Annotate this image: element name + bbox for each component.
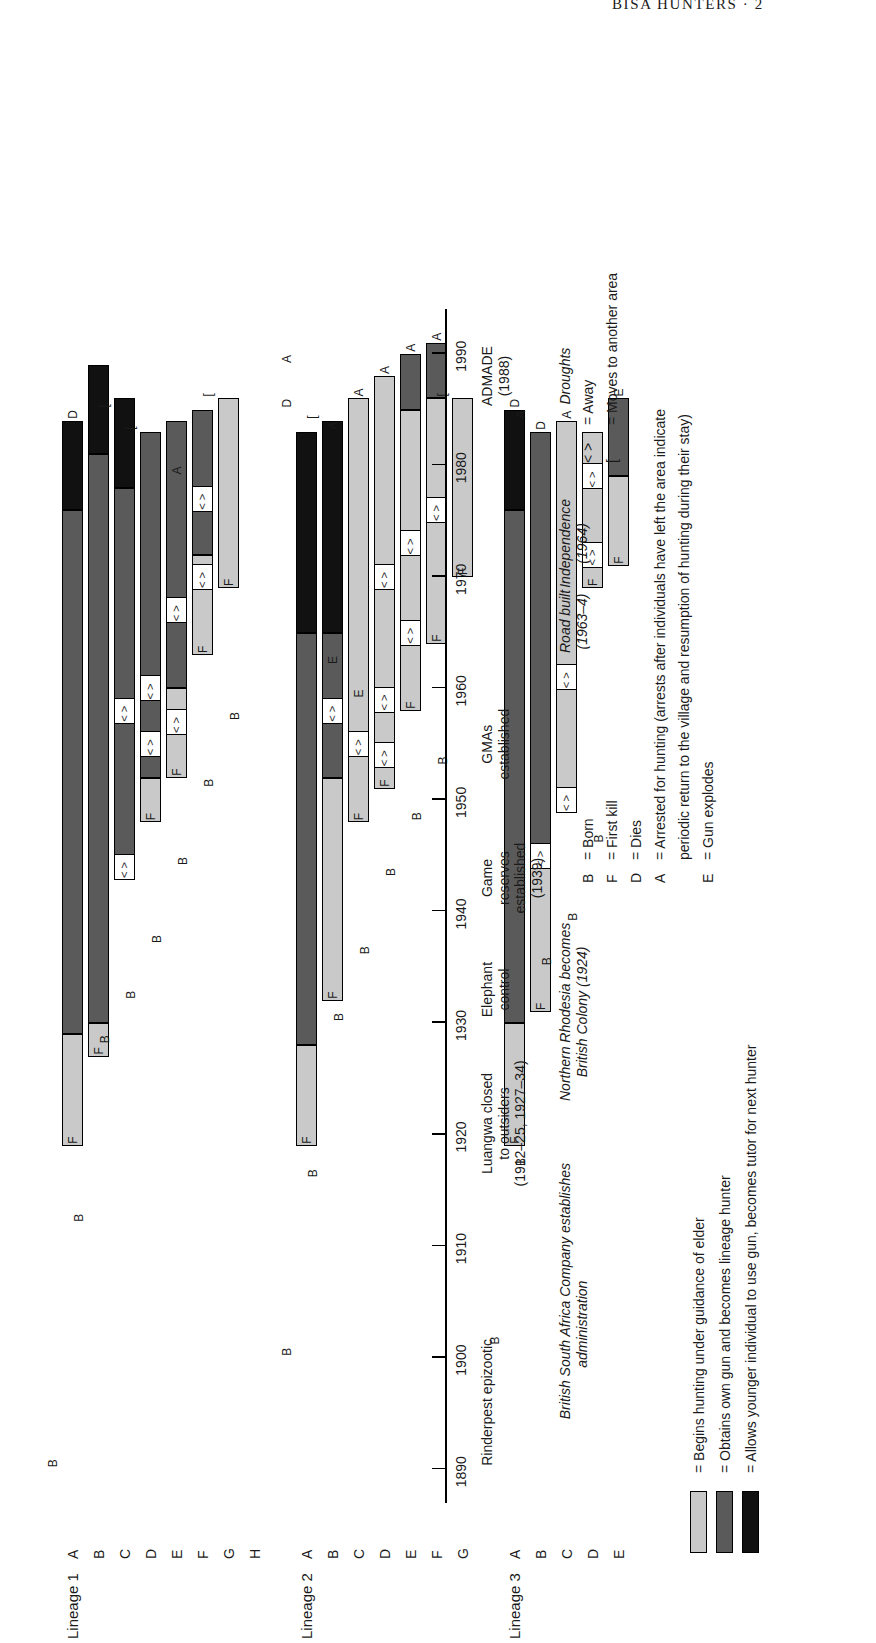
event-marker-F: F bbox=[379, 779, 391, 786]
figure: Lineage 1ABCDEFGHLineage 2ABCDEFGLineage… bbox=[0, 0, 876, 1643]
hunter-label: B bbox=[325, 1550, 341, 1559]
event-note-line: Independence bbox=[557, 448, 574, 638]
event-marker-B: B bbox=[151, 935, 163, 943]
away-marker: < > bbox=[171, 605, 182, 621]
key-letter-label: = Gun explodes bbox=[700, 762, 716, 860]
hunter-label: D bbox=[585, 1549, 601, 1559]
event-marker-A: A bbox=[353, 388, 365, 396]
axis-tick bbox=[432, 798, 445, 800]
key-letter-label: = Arrested for hunting (arrests after in… bbox=[652, 409, 668, 860]
event-marker-A: A bbox=[405, 344, 417, 352]
event-marker-[: [ bbox=[306, 415, 318, 418]
away-marker: < > bbox=[405, 628, 416, 644]
axis-tick bbox=[432, 1133, 445, 1135]
event-marker-B: B bbox=[411, 812, 423, 820]
career-segment-lineage_hunter bbox=[426, 343, 447, 399]
event-note-line: Rinderpest epizootic bbox=[479, 1307, 496, 1497]
career-segment-tutor bbox=[62, 421, 83, 510]
career-segment-tutor bbox=[322, 421, 343, 633]
key-letter-symbol: B bbox=[580, 874, 596, 883]
event-marker-A: A bbox=[515, 411, 527, 419]
event-note-line: (1939) bbox=[529, 783, 546, 973]
hunter-label: A bbox=[507, 1550, 523, 1559]
axis-tick bbox=[432, 575, 445, 577]
career-segment-lineage_hunter bbox=[166, 421, 187, 689]
career-segment-lineage_hunter bbox=[400, 354, 421, 410]
key-symbol-label: = Away bbox=[580, 380, 596, 425]
axis-tick-label: 1910 bbox=[453, 1233, 469, 1264]
event-marker-F: F bbox=[353, 813, 365, 820]
event-marker-B: B bbox=[359, 946, 371, 954]
axis-tick-label: 1940 bbox=[453, 898, 469, 929]
event-marker-A: A bbox=[379, 366, 391, 374]
axis-tick bbox=[432, 910, 445, 912]
career-segment-lineage_hunter bbox=[62, 510, 83, 1034]
hunter-label: H bbox=[247, 1549, 263, 1559]
event-marker-F: F bbox=[171, 768, 183, 775]
event-marker-A: A bbox=[171, 466, 183, 474]
event-marker-D: D bbox=[281, 399, 293, 408]
career-segment-apprentice bbox=[608, 476, 629, 565]
event-marker-B: B bbox=[333, 1013, 345, 1021]
event-marker-F: F bbox=[613, 556, 625, 563]
away-marker: < > bbox=[197, 494, 208, 510]
event-marker-F: F bbox=[197, 646, 209, 653]
event-note: Independence(1964) bbox=[557, 448, 590, 638]
hunter-label: C bbox=[117, 1549, 133, 1559]
event-marker-B: B bbox=[99, 1035, 111, 1043]
event-marker-F: F bbox=[405, 701, 417, 708]
hunter-label: G bbox=[221, 1548, 237, 1559]
key-letter-symbol: D bbox=[628, 873, 644, 883]
axis-tick bbox=[432, 687, 445, 689]
event-note: GMAsestablished bbox=[479, 649, 512, 839]
career-segment-tutor bbox=[88, 365, 109, 454]
career-segment-lineage_hunter bbox=[88, 454, 109, 1023]
career-segment-apprentice bbox=[296, 1045, 317, 1145]
event-note-line: (1988) bbox=[496, 281, 513, 471]
event-note-line: British South Africa Company establishes bbox=[557, 1229, 574, 1419]
hunter-label: D bbox=[377, 1549, 393, 1559]
event-marker-F: F bbox=[93, 1047, 105, 1054]
event-note: Northern Rhodesia becomesBritish Colony … bbox=[557, 917, 590, 1107]
hunter-label: B bbox=[91, 1550, 107, 1559]
event-note-line: ADMADE bbox=[479, 281, 496, 471]
event-note-line: (1912–25, 1927–34) bbox=[512, 1028, 529, 1218]
away-marker: < > bbox=[431, 505, 442, 521]
event-marker-B: B bbox=[73, 1214, 85, 1222]
event-note: Droughts bbox=[557, 281, 574, 471]
hunter-label: F bbox=[429, 1550, 445, 1559]
event-marker-A: A bbox=[281, 355, 293, 363]
away-marker: < > bbox=[145, 739, 156, 755]
rotated-figure-stage: Lineage 1ABCDEFGHLineage 2ABCDEFGLineage… bbox=[0, 0, 876, 1643]
key-symbol: [ bbox=[604, 459, 620, 463]
axis-tick bbox=[432, 1021, 445, 1023]
axis-tick-label: 1990 bbox=[453, 341, 469, 372]
event-note: Rinderpest epizootic bbox=[479, 1307, 496, 1497]
away-marker: < > bbox=[379, 695, 390, 711]
key-letter-symbol: A bbox=[652, 874, 668, 883]
event-note: ADMADE(1988) bbox=[479, 281, 512, 471]
event-marker-[: [ bbox=[98, 404, 110, 407]
key-letter-symbol: F bbox=[604, 874, 620, 883]
axis-tick-label: 1950 bbox=[453, 787, 469, 818]
event-marker-B: B bbox=[229, 712, 241, 720]
event-marker-F: F bbox=[431, 634, 443, 641]
hunter-label: G bbox=[455, 1548, 471, 1559]
axis-tick-label: 1920 bbox=[453, 1121, 469, 1152]
event-marker-[: [ bbox=[124, 427, 136, 430]
axis-tick bbox=[432, 1245, 445, 1247]
key-letter-label: = Dies bbox=[628, 820, 644, 860]
career-segment-apprentice bbox=[322, 778, 343, 1001]
event-marker-B: B bbox=[177, 857, 189, 865]
key-swatch-label: = Obtains own gun and becomes lineage hu… bbox=[717, 1175, 733, 1473]
event-marker-F: F bbox=[327, 991, 339, 998]
axis-tick-label: 1930 bbox=[453, 1010, 469, 1041]
axis-tick-label: 1900 bbox=[453, 1345, 469, 1376]
career-segment-lineage_hunter bbox=[140, 432, 161, 778]
event-note-line: established bbox=[512, 783, 529, 973]
key-swatch-label: = Begins hunting under guidance of elder bbox=[691, 1217, 707, 1473]
event-marker-B: B bbox=[125, 991, 137, 999]
lineage-title-2: Lineage 2 bbox=[298, 1573, 315, 1639]
away-marker: < > bbox=[171, 717, 182, 733]
event-marker-F: F bbox=[301, 1136, 313, 1143]
